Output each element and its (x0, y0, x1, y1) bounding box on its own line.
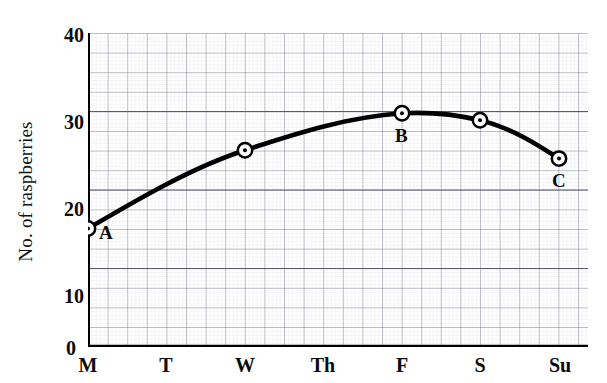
x-tick-label-th: Th (311, 355, 335, 375)
chart-figure: No. of raspberries 40 30 20 10 0 M T W T… (0, 0, 607, 383)
data-point-marker-w (238, 143, 252, 157)
x-tick-label-m: M (79, 355, 98, 375)
point-label-b: B (395, 126, 408, 145)
plot-area: A B C (88, 33, 588, 347)
x-tick-label-w: W (235, 355, 255, 375)
data-point-marker-a (88, 221, 95, 235)
point-label-c: C (552, 171, 566, 190)
x-tick-label-f: F (396, 355, 408, 375)
data-point-marker-b (395, 106, 409, 120)
chart-svg (88, 33, 588, 347)
x-tick-label-s: S (474, 355, 485, 375)
point-label-a: A (99, 223, 113, 242)
x-tick-label-t: T (159, 355, 172, 375)
x-tick-label-su: Su (549, 355, 571, 375)
data-point-marker-c (552, 151, 566, 165)
data-point-marker-s (473, 113, 487, 127)
